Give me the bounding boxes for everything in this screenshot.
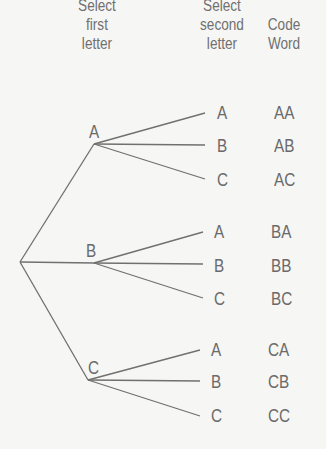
code-word-cc: CC [268,406,290,427]
node-cb: B [211,372,221,393]
node-ac: C [217,170,228,191]
code-word-ac: AC [274,170,295,191]
node-aa: A [217,103,227,124]
node-bc: C [214,289,225,310]
node-bb: B [214,256,224,277]
node-ca: A [211,340,221,361]
code-word-bb: BB [271,256,291,277]
code-word-aa: AA [274,103,294,124]
code-word-cb: CB [268,372,289,393]
node-first-a: A [89,122,99,143]
code-word-bc: BC [271,289,292,310]
node-cc: C [211,406,222,427]
code-word-ab: AB [274,136,294,157]
node-ba: A [214,222,224,243]
node-first-c: C [88,358,99,379]
node-ab: B [217,136,227,157]
node-first-b: B [86,241,96,262]
code-word-ba: BA [271,222,291,243]
code-word-ca: CA [268,340,289,361]
